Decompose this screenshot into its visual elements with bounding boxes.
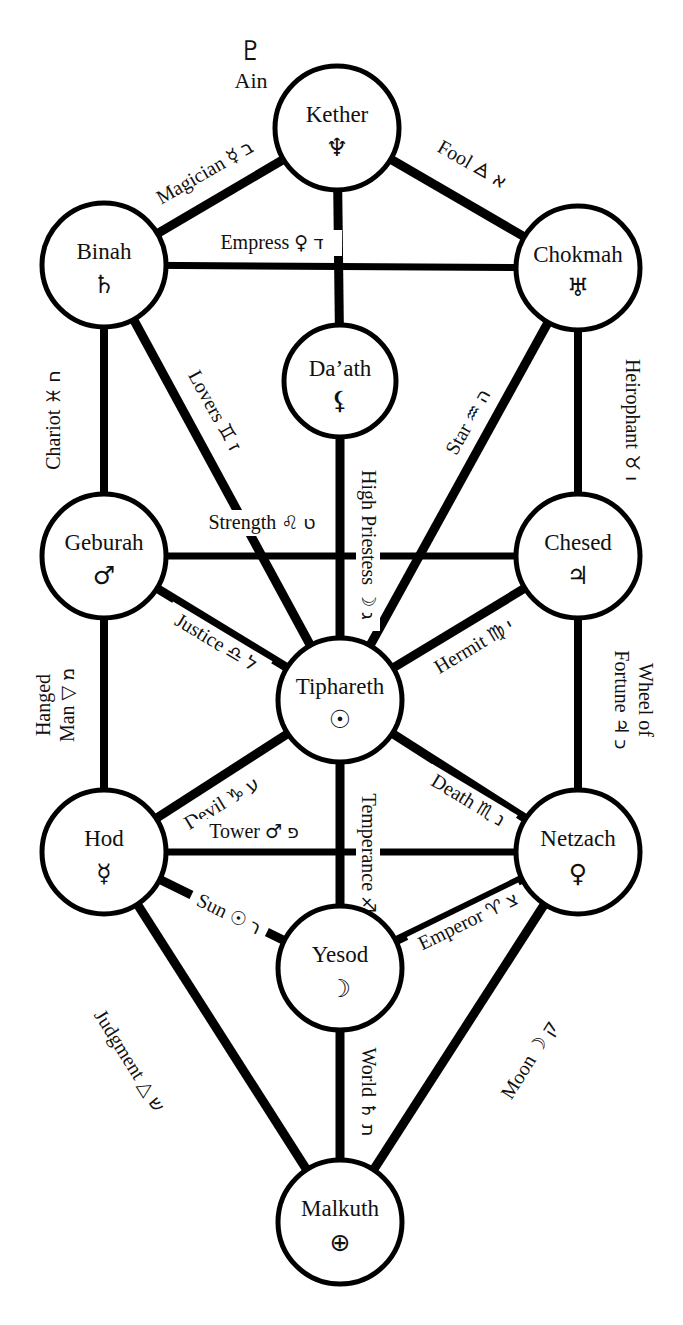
sephirah-chokmah[interactable]: Chokmah ♅ bbox=[516, 206, 640, 330]
uranus-icon: ♅ bbox=[567, 273, 589, 302]
sephirah-chesed[interactable]: Chesed ♃ bbox=[516, 494, 640, 618]
path-label-wheel-of-fortune: Wheel of Fortune ♃ כ bbox=[606, 642, 660, 758]
path-label-empress-text: Empress ♀ ד bbox=[220, 231, 323, 254]
sephirah-kether[interactable]: Kether ♆ bbox=[275, 66, 399, 190]
path-label-chariot-text: Chariot ♓ ח bbox=[42, 370, 64, 469]
jupiter-icon: ♃ bbox=[567, 561, 589, 590]
veil-ain: ♇ Ain bbox=[235, 35, 268, 93]
sephirah-malkuth-label: Malkuth bbox=[301, 1196, 379, 1221]
moon-icon: ☽ bbox=[329, 974, 351, 1003]
sephirah-geburah[interactable]: Geburah ♂ bbox=[42, 494, 166, 618]
path-label-wheel-line2: Fortune ♃ כ bbox=[611, 650, 633, 749]
path-label-magician-text: Magician ☿ ב bbox=[152, 135, 257, 209]
path-label-chariot: Chariot ♓ ח bbox=[42, 358, 66, 482]
sephirah-yesod-label: Yesod bbox=[312, 942, 369, 967]
path-label-sun: Sun ☉ ר bbox=[185, 884, 272, 944]
path-label-strength: Strength ♌ ט bbox=[190, 510, 334, 536]
pluto-icon: ♇ bbox=[239, 35, 263, 66]
neptune-icon: ♆ bbox=[326, 133, 348, 162]
path-label-wheel-line1: Wheel of bbox=[635, 663, 657, 737]
earth-icon: ⊕ bbox=[330, 1228, 351, 1257]
sephirah-chokmah-label: Chokmah bbox=[533, 242, 623, 267]
sephirah-tiphareth[interactable]: Tiphareth ☉ bbox=[278, 638, 402, 762]
sun-icon: ☉ bbox=[329, 705, 351, 734]
path-label-tower: Tower ♂ פ bbox=[194, 819, 314, 845]
path-label-hanged-man-line2: Man ▽ מ bbox=[56, 668, 78, 742]
path-label-judgment: Judgment △ ש bbox=[82, 996, 176, 1125]
sephirah-netzach-label: Netzach bbox=[540, 826, 616, 851]
sephirah-geburah-label: Geburah bbox=[64, 530, 144, 555]
sephirah-netzach[interactable]: Netzach ♀ bbox=[516, 790, 640, 914]
tree-of-life-canvas: Magician ☿ ב Fool 🜁 א Empress ♀ ד bbox=[0, 0, 683, 1325]
sephirah-tiphareth-label: Tiphareth bbox=[296, 674, 385, 699]
path-label-world: World ♄ ת bbox=[356, 1042, 380, 1142]
path-label-tower-text: Tower ♂ פ bbox=[209, 820, 299, 842]
sephirah-malkuth[interactable]: Malkuth ⊕ bbox=[278, 1160, 402, 1284]
path-label-heirophant-text: Heirophant ♉ ו bbox=[621, 359, 644, 481]
path-label-hanged-man-line1: Hanged bbox=[32, 674, 55, 736]
path-label-justice: Justice ♎ ל bbox=[160, 602, 273, 684]
saturn-icon: ♄ bbox=[93, 270, 115, 299]
path-label-world-text: World ♄ ת bbox=[358, 1047, 380, 1136]
sephirah-kether-label: Kether bbox=[306, 102, 369, 127]
path-label-moon: Moon ☽ ק bbox=[491, 1009, 568, 1111]
path-label-lovers-text: Lovers ♊ ז bbox=[184, 366, 246, 455]
veil-label: Ain bbox=[235, 68, 268, 93]
path-label-high-priestess: High Priestess ☽ ג bbox=[356, 459, 380, 631]
venus-icon: ♀ bbox=[569, 859, 587, 888]
path-line-binah-chokmah bbox=[104, 265, 578, 268]
tree-of-life-diagram: Magician ☿ ב Fool 🜁 א Empress ♀ ד bbox=[0, 0, 683, 1325]
path-label-heirophant: Heirophant ♉ ו bbox=[620, 342, 644, 498]
mercury-icon: ☿ bbox=[96, 859, 111, 888]
sephirah-chesed-label: Chesed bbox=[544, 530, 612, 555]
sephirah-daath-label: Da’ath bbox=[309, 356, 372, 381]
path-label-judgment-text: Judgment △ ש bbox=[89, 1005, 170, 1115]
sephirah-hod-label: Hod bbox=[84, 826, 124, 851]
lilith-icon: ⚸ bbox=[331, 386, 349, 415]
path-label-high-priestess-text: High Priestess ☽ ג bbox=[357, 470, 380, 620]
path-label-hanged-man: Hanged Man ▽ מ bbox=[29, 647, 83, 763]
mars-icon: ♂ bbox=[93, 561, 115, 590]
path-label-moon-text: Moon ☽ ק bbox=[496, 1016, 561, 1103]
sephirah-binah-label: Binah bbox=[77, 239, 132, 264]
path-label-empress: Empress ♀ ד bbox=[202, 230, 342, 256]
sephirah-binah[interactable]: Binah ♄ bbox=[42, 203, 166, 327]
path-label-strength-text: Strength ♌ ט bbox=[208, 511, 315, 534]
sephirah-hod[interactable]: Hod ☿ bbox=[42, 790, 166, 914]
sephirah-daath[interactable]: Da’ath ⚸ bbox=[284, 325, 396, 437]
sephirah-yesod[interactable]: Yesod ☽ bbox=[278, 906, 402, 1030]
path-label-sun-text: Sun ☉ ר bbox=[193, 889, 265, 939]
